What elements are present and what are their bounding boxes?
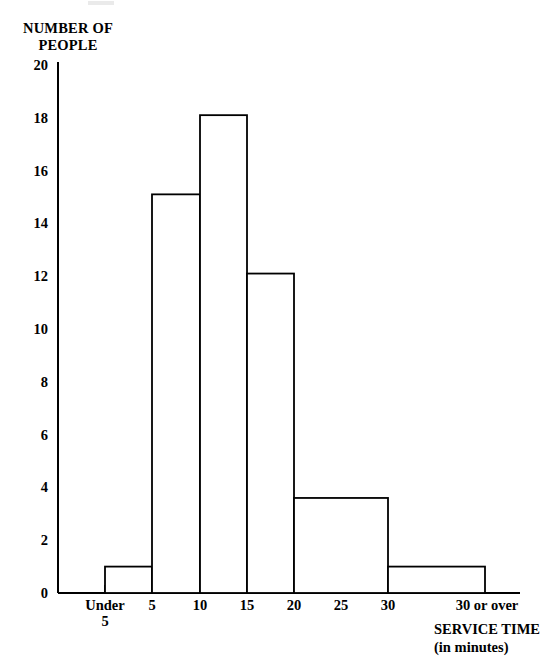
- y-tick-label-18: 18: [8, 110, 48, 126]
- bar-bin-u5: [105, 567, 152, 593]
- histogram-chart: NUMBER OF PEOPLE 20181614121086420 Under…: [0, 0, 558, 661]
- y-tick-label-16: 16: [8, 163, 48, 179]
- y-tick-label-14: 14: [8, 215, 48, 231]
- y-tick-label-20: 20: [8, 57, 48, 73]
- x-tick-label-7: 30 or over: [427, 597, 547, 613]
- y-tick-label-0: 0: [8, 585, 48, 601]
- x-axis-title-line1: SERVICE TIME: [434, 620, 554, 638]
- y-tick-label-4: 4: [8, 479, 48, 495]
- y-tick-label-6: 6: [8, 427, 48, 443]
- y-tick-label-10: 10: [8, 321, 48, 337]
- bar-bin-30-over: [388, 567, 485, 593]
- bars-group: [105, 115, 485, 593]
- bar-bin-5-10: [152, 194, 200, 593]
- y-tick-label-12: 12: [8, 268, 48, 284]
- plot-area: [0, 0, 558, 661]
- y-tick-label-2: 2: [8, 532, 48, 548]
- bar-bin-20-30: [294, 498, 388, 593]
- bar-bin-10-15: [200, 115, 247, 593]
- bar-bin-15-20: [247, 274, 294, 593]
- x-axis-title-line2: (in minutes): [434, 638, 554, 656]
- y-tick-label-8: 8: [8, 374, 48, 390]
- x-tick-label-6: 30: [353, 597, 423, 613]
